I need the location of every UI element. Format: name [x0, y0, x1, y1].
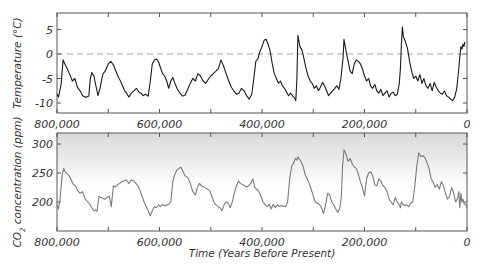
co2-panel: 300250200 800,000600,000400,000200,0000 …: [11, 116, 471, 259]
y-tick-label: 250: [32, 167, 53, 180]
x-tick-label: 200,000: [342, 118, 388, 131]
x-tick-label: 600,000: [137, 236, 183, 249]
x-tick-label: 600,000: [137, 118, 183, 131]
x-tick-label: 0: [464, 236, 471, 249]
temperature-y-axis-title: Temperature (°C): [11, 17, 23, 108]
x-tick-label: 0: [464, 118, 471, 131]
y-tick-label: -10: [35, 97, 53, 110]
y-tick-label: 300: [32, 138, 53, 151]
co2-y-axis-title: CO2 concentration (ppm): [11, 116, 27, 247]
temperature-panel: 50-5-10 800,000600,000400,000200,0000 Te…: [11, 13, 471, 131]
x-tick-label: 200,000: [342, 236, 388, 249]
y-tick-label: 0: [46, 48, 53, 61]
x-tick-label: 800,000: [34, 236, 80, 249]
temperature-plot-frame: [57, 13, 467, 113]
y-tick-label: 200: [32, 196, 53, 209]
x-tick-label: 800,000: [34, 118, 80, 131]
y-tick-label: -5: [42, 73, 53, 86]
x-tick-label: 400,000: [239, 118, 285, 131]
co2-plot-frame: [57, 133, 467, 231]
x-axis-title: Time (Years Before Present): [189, 247, 336, 259]
y-tick-label: 5: [46, 24, 53, 37]
climate-chart: 50-5-10 800,000600,000400,000200,0000 Te…: [0, 0, 481, 277]
